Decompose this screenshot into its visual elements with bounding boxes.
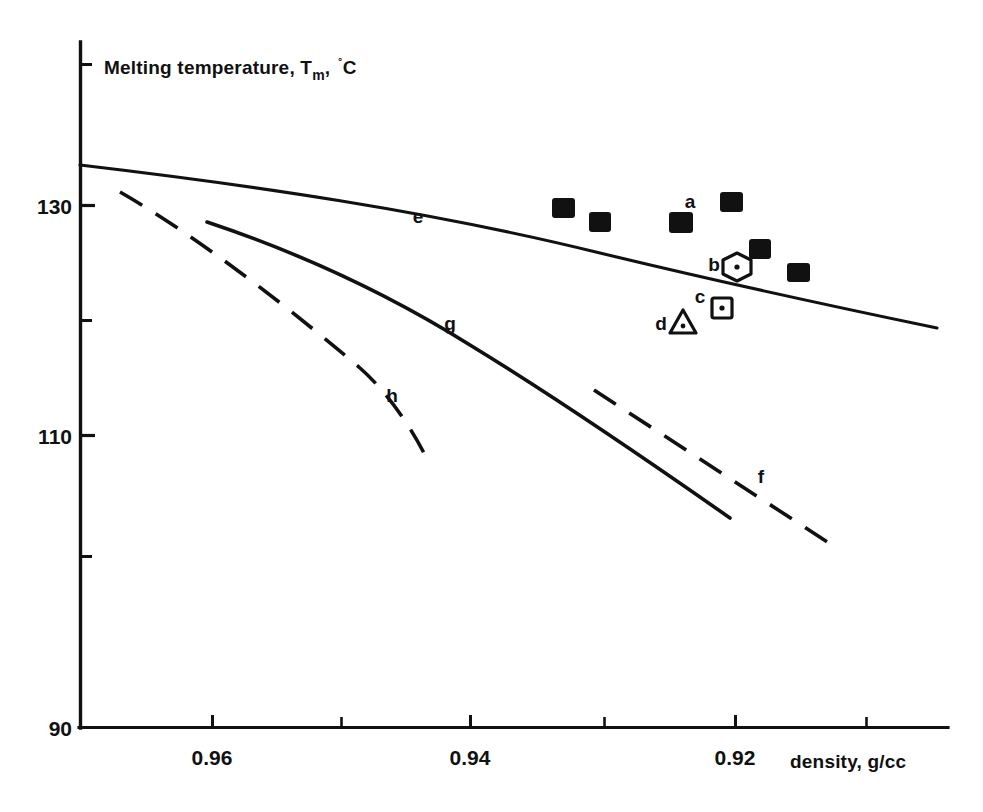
x-tick-label-092: 0.92 xyxy=(715,746,756,769)
y-axis-title: Melting temperature, Tm,˚C xyxy=(104,56,357,83)
curve-label-f: f xyxy=(758,466,765,487)
marker-filled-square xyxy=(749,239,771,259)
marker-filled-square xyxy=(552,198,575,218)
x-tick-label-094: 0.94 xyxy=(450,746,491,769)
point-label-c: c xyxy=(695,286,706,307)
marker-filled-square xyxy=(669,212,693,233)
chart-figure: Melting temperature, Tm,˚C density, g/cc… xyxy=(0,0,983,812)
curve-e-line xyxy=(80,165,937,328)
y-axis-title-unit: C xyxy=(343,57,357,78)
marker-filled-square xyxy=(787,263,810,282)
curve-f-line xyxy=(594,390,835,547)
curve-label-h: h xyxy=(386,385,398,406)
y-axis-title-main: Melting temperature, T xyxy=(104,57,312,78)
marker-open-triangle-dot xyxy=(670,310,696,333)
axis-group xyxy=(79,42,948,728)
point-label-b: b xyxy=(708,254,720,275)
axis-labels-group: Melting temperature, Tm,˚C density, g/cc… xyxy=(37,56,907,772)
chart-plot-area: Melting temperature, Tm,˚C density, g/cc… xyxy=(0,0,983,812)
marker-filled-square xyxy=(589,212,611,232)
y-tick-label-110: 110 xyxy=(38,425,72,448)
point-label-a: a xyxy=(685,191,696,212)
x-axis-title: density, g/cc xyxy=(790,751,907,772)
marker-open-square-dot xyxy=(712,298,732,318)
point-label-d: d xyxy=(655,313,667,334)
y-axis-title-subscript: m xyxy=(312,67,325,83)
curve-h-line xyxy=(120,192,425,455)
marker-filled-square xyxy=(720,192,743,212)
y-axis-title-comma: , xyxy=(325,57,330,78)
scatter-markers-group xyxy=(552,192,810,333)
y-tick-label-130: 130 xyxy=(37,195,72,218)
x-tick-label-096: 0.96 xyxy=(192,746,233,769)
curve-label-g: g xyxy=(444,313,456,334)
y-tick-label-90: 90 xyxy=(49,717,72,740)
curves-group xyxy=(80,165,937,547)
curve-label-e: e xyxy=(413,206,424,227)
marker-open-hexagon-dot xyxy=(723,253,751,281)
